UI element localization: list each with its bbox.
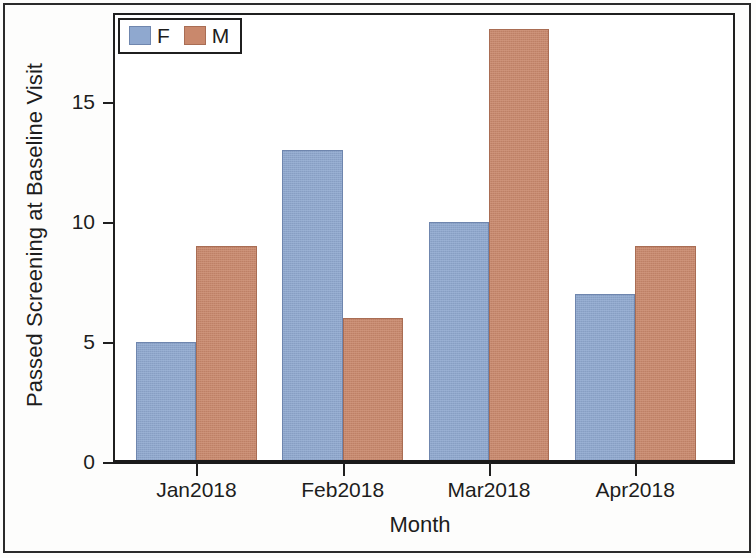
bar-texture (576, 295, 634, 461)
bar-f-mar2018[interactable] (429, 222, 489, 462)
x-tick-label-apr2018: Apr2018 (555, 478, 715, 502)
y-tick-mark (103, 342, 115, 344)
x-tick-mark (489, 462, 491, 476)
y-tick-mark (103, 222, 115, 224)
bar-f-feb2018[interactable] (282, 150, 342, 462)
y-tick-label: 0 (35, 450, 95, 474)
x-tick-mark (196, 462, 198, 476)
bar-texture (430, 223, 488, 461)
y-tick-label: 15 (35, 90, 95, 114)
bar-f-jan2018[interactable] (136, 342, 196, 462)
bar-m-apr2018[interactable] (635, 246, 695, 462)
bar-f-apr2018[interactable] (575, 294, 635, 462)
legend-swatch-f (129, 26, 151, 45)
legend-entry-m[interactable]: M (184, 25, 230, 46)
chart-legend: FM (118, 18, 242, 54)
bar-texture (344, 319, 402, 461)
x-tick-label-feb2018: Feb2018 (263, 478, 423, 502)
x-tick-mark (635, 462, 637, 476)
bar-texture (137, 343, 195, 461)
legend-label: M (212, 25, 230, 46)
chart-screenshot: Passed Screening at Baseline Visit 05101… (0, 0, 756, 558)
bar-m-feb2018[interactable] (343, 318, 403, 462)
y-tick-mark (103, 102, 115, 104)
legend-entry-f[interactable]: F (129, 25, 170, 46)
x-axis-baseline (113, 460, 735, 464)
x-tick-mark (343, 462, 345, 476)
x-axis-title: Month (100, 512, 740, 538)
bar-m-jan2018[interactable] (196, 246, 256, 462)
bar-texture (197, 247, 255, 461)
x-tick-label-jan2018: Jan2018 (116, 478, 276, 502)
y-tick-label: 10 (35, 210, 95, 234)
x-tick-label-mar2018: Mar2018 (409, 478, 569, 502)
y-tick-label: 5 (35, 330, 95, 354)
bar-m-mar2018[interactable] (489, 29, 549, 462)
y-axis-title: Passed Screening at Baseline Visit (22, 0, 48, 470)
bar-chart-figure: Passed Screening at Baseline Visit 05101… (0, 0, 756, 558)
legend-label: F (157, 25, 170, 46)
bar-texture (636, 247, 694, 461)
legend-swatch-m (184, 26, 206, 45)
bar-texture (490, 30, 548, 461)
bar-texture (283, 151, 341, 461)
